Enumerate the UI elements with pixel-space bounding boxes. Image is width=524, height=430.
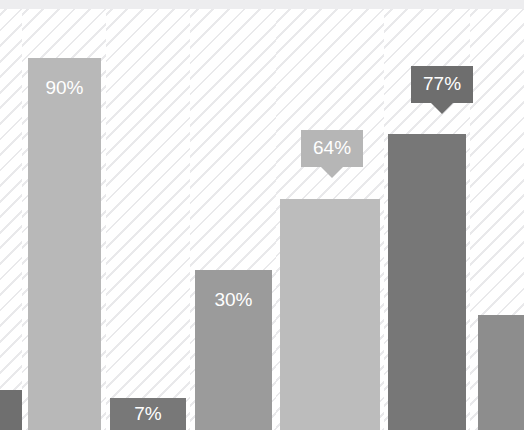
bar-7[interactable] — [478, 315, 524, 430]
bar-6-value-callout: 77% — [411, 66, 473, 103]
bar-6-value-label: 77% — [423, 73, 461, 94]
bar-4[interactable]: 30% — [195, 270, 272, 430]
bar-2[interactable]: 90% — [28, 58, 101, 430]
cropped-header-strip — [0, 0, 524, 9]
bar-4-value-label: 30% — [195, 290, 272, 309]
bar-1-value-badge — [0, 390, 22, 430]
bar-2-value-label: 90% — [28, 78, 101, 97]
bar-3[interactable]: 7% — [110, 398, 186, 430]
chart-crop-canvas: 90% 7% 30% 64% 77% — [0, 0, 524, 430]
bar-5-value-callout: 64% — [301, 130, 363, 167]
column-band — [106, 9, 190, 430]
bar-6[interactable] — [388, 134, 466, 430]
bar-3-value-label: 7% — [110, 404, 186, 423]
callout-pointer-icon — [431, 103, 453, 114]
column-band — [0, 9, 22, 430]
callout-pointer-icon — [321, 167, 343, 178]
bar-5-value-label: 64% — [313, 137, 351, 158]
bar-5[interactable] — [280, 199, 380, 430]
